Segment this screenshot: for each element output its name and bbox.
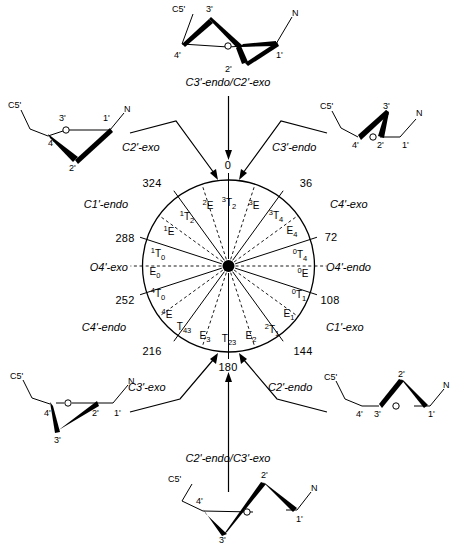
arrow-bottom-head [225, 372, 232, 382]
atom-ll-1: 1' [114, 408, 121, 418]
atom-bt-2: 2' [261, 470, 268, 480]
atom-bt-4: 4' [196, 496, 203, 506]
wheel-rim-tick [174, 191, 178, 197]
atom-ur-2: 2' [377, 140, 384, 150]
atom-lr-3: 3' [374, 409, 381, 419]
lr-bold-3-2 [379, 379, 404, 408]
ll-bond-c5-4 [32, 398, 50, 404]
atom-ul-4: 4' [48, 138, 55, 148]
wheel-angle-108: 108 [316, 294, 344, 306]
callout-label-c3-endo: C3'-endo [272, 141, 316, 153]
wheel-rim-tick [310, 237, 317, 239]
top-bold-2-down [236, 46, 248, 64]
lr-bold-2-1 [401, 379, 428, 408]
ul-bond-1-n [110, 113, 124, 130]
atom-ul-c5: C5' [8, 100, 21, 110]
bt-bond-1-n [297, 492, 311, 510]
atom-ul-2: 2' [69, 163, 76, 173]
atom-bt-1: 1' [296, 514, 303, 524]
atom-top-4: 4' [174, 50, 181, 60]
ll-bond-1-n [113, 385, 128, 403]
conformer-label-288: 1T0 [142, 246, 174, 262]
wheel-angle-72: 72 [317, 231, 345, 243]
conformer-label-72: 0T4 [284, 247, 316, 263]
bt-bond-c5 [182, 484, 192, 501]
conformer-label-324: 1T2 [171, 209, 203, 225]
atom-top-c5: C5' [172, 4, 185, 14]
wheel-region-c4-endo: C4'-endo [0, 321, 126, 333]
wheel-rim-tick [140, 237, 147, 239]
ll-bond-c5 [23, 380, 32, 398]
atom-lr-1: 1' [428, 409, 435, 419]
ul-bond-4-3 [48, 131, 63, 136]
atom-ur-1: 1' [402, 140, 409, 150]
atom-lr-c5: C5' [324, 372, 337, 382]
bt-bold-2-1 [263, 482, 297, 512]
conformer-label-90: 0E [287, 266, 319, 279]
atom-ll-n: N [128, 376, 135, 386]
top-bold-4-3 [182, 19, 213, 47]
atom-ul-n: N [124, 104, 131, 114]
ul-bond-c5 [21, 110, 30, 129]
ur-bond-1-n [400, 119, 416, 137]
atom-bt-n: N [311, 483, 318, 493]
top-bold-2-1-a [240, 41, 276, 47]
ul-bold-2-1 [75, 128, 113, 164]
conformer-label-36: 3T4 [260, 208, 292, 224]
conformer-label-126: E1 [273, 308, 305, 322]
atom-ll-c5: C5' [10, 371, 23, 381]
conformer-label-270: E0 [139, 266, 171, 280]
atom-bt-c5: C5' [168, 474, 181, 484]
ul-bond-c5-4 [30, 129, 48, 136]
lr-bond-1-n [430, 389, 444, 406]
structure-bottom [182, 482, 311, 536]
atom-lr-2: 2' [398, 369, 405, 379]
atom-ll-3: 3' [54, 435, 61, 445]
wheel-angle-324: 324 [138, 177, 166, 189]
callout-label-c2-exo: C2'-exo [122, 141, 160, 153]
top-bond-4-o [182, 44, 228, 47]
ll-ring-oxygen [65, 400, 71, 406]
conformer-label-234: 4E [151, 307, 183, 320]
top-bond-1-n [276, 17, 292, 44]
atom-ul-3: 3' [59, 113, 66, 123]
lr-bond-c5 [336, 381, 345, 399]
caption-top: C3'-endo/C2'-exo [148, 76, 308, 88]
atom-ur-3: 3' [383, 101, 390, 111]
callout-label-c2-endo: C2'-endo [268, 381, 312, 393]
wheel-angle-216: 216 [138, 345, 166, 357]
conformer-label-54: E4 [276, 225, 308, 239]
wheel-center-hub [223, 260, 235, 272]
atom-top-n: N [292, 8, 299, 18]
top-ring-oxygen [225, 43, 231, 49]
caption-bottom: C2'-endo/C3'-exo [148, 452, 308, 464]
wheel-angle-180: 180 [214, 361, 242, 373]
conformer-label-216: T43 [168, 321, 200, 335]
atom-bt-3: 3' [219, 535, 226, 545]
atom-top-1: 1' [276, 50, 283, 60]
atom-ll-4: 4' [44, 408, 51, 418]
atom-ur-c5: C5' [320, 101, 333, 111]
conformer-label-108: 0T1 [283, 287, 315, 303]
lr-bond-c5-4 [345, 399, 362, 406]
ll-bold-4-3 [50, 402, 60, 433]
bt-ring-oxygen [244, 509, 250, 515]
ur-bond-c5 [332, 111, 341, 128]
conformer-label-306: 1E [153, 224, 185, 237]
wheel-region-o4-exo: O4'-exo [0, 261, 128, 273]
wheel-angle-252: 252 [111, 294, 139, 306]
conformer-label-252: 4T0 [142, 286, 174, 302]
lr-ring-oxygen [393, 403, 399, 409]
conformer-label-342: 2E [192, 198, 224, 211]
atom-ur-4: 4' [352, 140, 359, 150]
wheel-angle-144: 144 [289, 345, 317, 357]
ul-ring-oxygen [63, 127, 69, 133]
atom-lr-4: 4' [356, 409, 363, 419]
wheel-angle-36: 36 [292, 177, 320, 189]
wheel-region-c1-endo: C1'-endo [0, 198, 128, 210]
atom-top-3: 3' [206, 4, 213, 14]
wheel-rim-tick [279, 191, 283, 197]
wheel-region-c4-exo: C4'-exo [330, 198, 368, 210]
atom-ll-2: 2' [92, 408, 99, 418]
